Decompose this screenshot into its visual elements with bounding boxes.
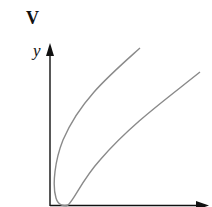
curve	[54, 48, 200, 206]
x-axis-arrow-icon	[196, 201, 209, 207]
diagram-canvas	[0, 0, 212, 207]
y-axis-arrow-icon	[46, 43, 54, 56]
